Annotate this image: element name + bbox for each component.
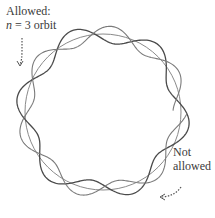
not-allowed-label-line1: Not [173, 145, 191, 159]
not-allowed-label-line2: allowed [173, 159, 211, 173]
not-allowed-arrow-icon [162, 187, 181, 197]
not-allowed-label: Not allowed [173, 145, 211, 173]
reference-orbit-circle [25, 34, 181, 190]
allowed-label-line1: Allowed: [6, 4, 51, 18]
allowed-arrowhead-icon [17, 61, 23, 66]
not-allowed-wave [20, 26, 187, 195]
allowed-arrow-icon [20, 38, 22, 64]
orbit-diagram [0, 0, 215, 218]
allowed-label-rest: = 3 orbit [12, 18, 56, 32]
allowed-label: Allowed: n = 3 orbit [6, 4, 56, 32]
